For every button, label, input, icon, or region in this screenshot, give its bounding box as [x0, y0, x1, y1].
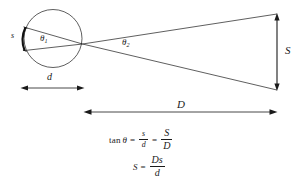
label-diameter-d: d [47, 72, 52, 82]
ray-upper-right [83, 14, 278, 44]
equation-equals: = [138, 162, 149, 172]
angular-size-diagram: s d D S θ1 θ2 tan θ = s d = S D S = Ds d [0, 0, 300, 184]
label-theta-2: θ2 [122, 38, 130, 48]
ray-lower-left [25, 44, 83, 51]
D-arrow-right [270, 109, 278, 115]
label-theta-1: θ1 [40, 34, 48, 44]
equation-equals-1: = [127, 135, 138, 145]
fraction-s-over-d: s d [139, 130, 148, 149]
D-arrow-left [84, 109, 92, 115]
equation-tangent-relation: tan θ = s d = S D [109, 128, 173, 151]
theta1-subscript: 1 [44, 38, 47, 44]
fraction-numerator-S: S [162, 128, 171, 139]
fraction-Ds-over-d: Ds d [150, 155, 165, 178]
d-arrow-left [21, 85, 29, 90]
fraction-numerator-Ds: Ds [150, 155, 165, 166]
equation-solved-for-S: S = Ds d [133, 155, 166, 178]
label-distance-D: D [177, 99, 185, 110]
fraction-numerator-s: s [140, 130, 147, 138]
label-arc-s: s [11, 32, 14, 40]
fraction-S-over-D: S D [161, 128, 172, 151]
ray-upper-left [25, 28, 82, 45]
fraction-denominator-d: d [140, 141, 148, 149]
label-size-S: S [285, 45, 291, 56]
object-circle [24, 10, 82, 68]
fraction-denominator-D: D [161, 141, 172, 152]
d-arrow-right [77, 85, 85, 90]
fraction-denominator-d: d [153, 168, 162, 179]
ray-lower-right [83, 44, 278, 90]
equation-tan-function: tan [109, 135, 121, 145]
theta2-subscript: 2 [126, 42, 129, 48]
equation-equals-2: = [149, 135, 160, 145]
